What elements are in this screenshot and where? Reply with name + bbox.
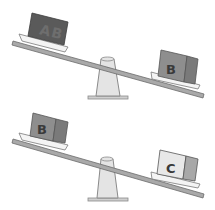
top-scale: A B B [12, 13, 204, 99]
box-c-label: C [166, 161, 176, 176]
bottom-scale: B C [12, 113, 204, 201]
balance-diagram: A B B B [0, 0, 215, 210]
box-b-label: B [166, 62, 176, 77]
box-b-label: B [37, 122, 47, 137]
